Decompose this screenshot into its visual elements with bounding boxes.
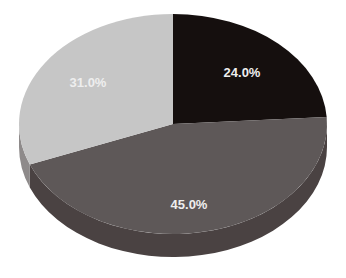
slice-label-2: 31.0% <box>70 75 107 90</box>
pie-chart: 24.0% 45.0% 31.0% <box>0 0 346 278</box>
slice-label-1: 45.0% <box>171 197 208 212</box>
slice-label-0: 24.0% <box>224 65 261 80</box>
